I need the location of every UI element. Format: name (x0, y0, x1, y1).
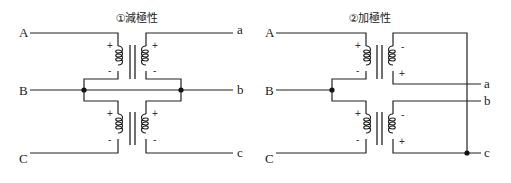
terminal-C: C (19, 151, 28, 166)
wire-A (276, 33, 366, 46)
terminal-a: a (484, 76, 490, 91)
terminal-B: B (265, 83, 274, 98)
secondary-coil-icon (389, 114, 396, 133)
transformer-upper: + - - + (276, 33, 481, 153)
terminal-c: c (484, 145, 490, 160)
polarity-mark: - (401, 109, 404, 120)
polarity-mark: + (399, 136, 405, 147)
wire-primary-bottom (84, 71, 118, 90)
primary-coil-icon (364, 114, 371, 133)
wire-secondary-bottom (146, 71, 181, 90)
secondary-coil-icon (142, 46, 149, 65)
wire-primary-top (84, 90, 118, 114)
diagram-subtractive: ①減極性 A B C a b c + - + - (19, 11, 244, 166)
secondary-coil-icon (389, 46, 396, 65)
polarity-mark: - (356, 65, 359, 76)
wire-a (146, 33, 233, 46)
polarity-mark: + (152, 40, 158, 51)
wire-c (146, 139, 233, 153)
transformer-lower: + - + - (30, 90, 233, 153)
terminal-C: C (265, 151, 274, 166)
transformer-lower: + - - + (276, 90, 481, 156)
primary-coil-icon (364, 46, 371, 65)
terminal-b: b (237, 82, 244, 97)
terminal-B: B (19, 83, 28, 98)
polarity-mark: - (153, 134, 156, 145)
wire-A (30, 33, 118, 46)
wire-primary-bottom (332, 71, 366, 90)
wire-C (276, 139, 366, 153)
polarity-mark: + (107, 108, 113, 119)
polarity-mark: - (401, 41, 404, 52)
polarity-diagrams: ①減極性 A B C a b c + - + - (0, 0, 511, 183)
polarity-mark: - (153, 65, 156, 76)
diagram-title: ①減極性 (116, 11, 159, 25)
diagram-title: ②加極性 (349, 11, 392, 25)
polarity-mark: + (152, 108, 158, 119)
terminal-A: A (265, 25, 275, 40)
polarity-mark: + (107, 40, 113, 51)
terminal-A: A (19, 25, 29, 40)
transformer-upper: + - + - (30, 33, 233, 90)
diagram-additive: ②加極性 A B C a b c + - - + (265, 11, 491, 166)
wire-b (393, 101, 481, 114)
polarity-mark: - (108, 65, 111, 76)
wire-a (393, 71, 481, 84)
terminal-b: b (484, 93, 491, 108)
secondary-coil-icon (142, 114, 149, 133)
wire-C (30, 139, 118, 153)
wire-primary-top (332, 90, 366, 114)
primary-coil-icon (116, 46, 123, 65)
terminal-a: a (237, 22, 243, 37)
polarity-mark: - (356, 134, 359, 145)
polarity-mark: + (355, 40, 361, 51)
polarity-mark: + (355, 108, 361, 119)
polarity-mark: - (108, 134, 111, 145)
primary-coil-icon (116, 114, 123, 133)
terminal-c: c (237, 145, 243, 160)
polarity-mark: + (399, 68, 405, 79)
junction-dot (464, 150, 469, 155)
